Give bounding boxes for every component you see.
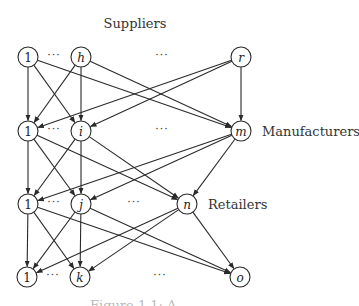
edge-rn-co bbox=[193, 212, 234, 268]
suppliers-node-h: h bbox=[71, 47, 91, 67]
manufacturers-label: Manufacturers bbox=[262, 124, 359, 139]
node-label: h bbox=[77, 51, 85, 65]
edge-mm-rn bbox=[193, 139, 235, 196]
suppliers-node-r: r bbox=[231, 47, 251, 67]
edge-r1-c1 bbox=[27, 214, 28, 267]
ellipsis: ··· bbox=[47, 49, 61, 62]
manufacturers-node-1: 1 bbox=[18, 121, 38, 141]
edge-rn-c1 bbox=[37, 208, 178, 272]
edges-group bbox=[27, 60, 241, 273]
node-label: o bbox=[236, 271, 243, 285]
edge-rj-co bbox=[90, 208, 230, 272]
node-label: 1 bbox=[24, 51, 32, 65]
manufacturers-node-i: i bbox=[71, 121, 91, 141]
retailers-node-n: n bbox=[177, 194, 197, 214]
ellipsis: ··· bbox=[153, 269, 167, 282]
customers-node-o: o bbox=[230, 267, 250, 287]
node-label: k bbox=[76, 271, 83, 285]
supply-chain-network-diagram: Suppliers 1hr1im1jn1ko ············Manuf… bbox=[0, 0, 359, 306]
customers-node-k: k bbox=[70, 267, 90, 287]
retailers-node-1: 1 bbox=[18, 194, 38, 214]
suppliers-node-1: 1 bbox=[18, 47, 38, 67]
node-label: m bbox=[235, 125, 246, 139]
edge-mm-rj bbox=[91, 135, 232, 199]
ellipsis: ··· bbox=[46, 269, 60, 282]
ellipsis: ··· bbox=[155, 49, 169, 62]
edge-rn-ck bbox=[89, 210, 179, 271]
node-label: i bbox=[79, 125, 83, 139]
ellipsis: ··· bbox=[47, 123, 61, 136]
customers-node-1: 1 bbox=[17, 267, 37, 287]
ellipsis: ··· bbox=[127, 196, 141, 209]
node-label: 1 bbox=[23, 271, 31, 285]
retailers-node-j: j bbox=[71, 194, 91, 214]
retailers-label: Retailers bbox=[208, 197, 267, 212]
manufacturers-node-m: m bbox=[231, 121, 251, 141]
node-label: 1 bbox=[24, 125, 32, 139]
edge-mm-r1 bbox=[38, 134, 232, 200]
ellipsis: ··· bbox=[47, 196, 61, 209]
node-label: n bbox=[183, 198, 191, 212]
caption-cut: Figure 1.1: A ... bbox=[90, 298, 193, 306]
suppliers-title: Suppliers bbox=[104, 16, 167, 31]
ellipsis: ··· bbox=[155, 123, 169, 136]
node-label: 1 bbox=[24, 198, 32, 212]
edge-m1-rn bbox=[37, 135, 177, 199]
edge-rj-ck bbox=[80, 214, 81, 267]
